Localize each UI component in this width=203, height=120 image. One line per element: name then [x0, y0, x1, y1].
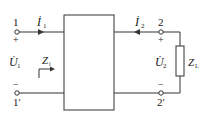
zi-sub: i	[49, 61, 51, 67]
zi-arrowhead-icon	[50, 67, 55, 72]
voltage-u1-sub: 1	[17, 62, 21, 70]
port2-minus: −	[158, 79, 164, 90]
port1-plus: +	[13, 34, 19, 45]
current-i2-sub: 2	[141, 22, 145, 30]
terminal-2-label: 2	[158, 16, 164, 28]
load-resistor	[176, 46, 184, 76]
zi-label: Z	[42, 54, 49, 66]
voltage-u2-sub: 2	[163, 62, 167, 70]
two-port-diagram: 1 + − 1′ İ 1 U̇ 1 Z i 2 + − 2′ İ 2 U̇ 2 …	[0, 0, 203, 120]
load-label: Z	[188, 56, 195, 68]
port1-minus: −	[13, 79, 19, 90]
current-i1-sub: 1	[43, 22, 47, 30]
terminal-1-label: 1	[13, 16, 19, 28]
two-port-box	[64, 15, 114, 110]
current-i1-label: İ	[36, 15, 42, 29]
current-arrow-i2-icon	[134, 29, 140, 35]
terminal-1-prime	[15, 91, 19, 95]
load-top-wire	[163, 32, 180, 46]
load-sub: L	[195, 63, 199, 69]
terminal-2-prime-label: 2′	[157, 96, 165, 108]
load-bottom-wire	[163, 76, 180, 93]
current-i2-label: İ	[134, 15, 140, 29]
terminal-1-prime-label: 1′	[13, 96, 21, 108]
port2-plus: +	[158, 34, 164, 45]
terminal-2-prime	[159, 91, 163, 95]
